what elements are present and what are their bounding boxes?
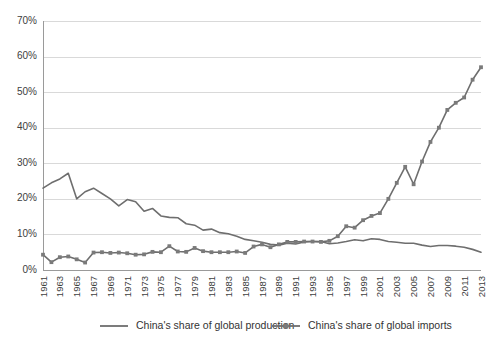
y-axis-tick-label: 70%: [17, 15, 37, 26]
y-axis-tick-label: 50%: [17, 86, 37, 97]
series-marker: [336, 234, 340, 238]
x-axis-tick-label: 1971: [122, 276, 133, 297]
x-axis-tick-label: 2001: [374, 276, 385, 297]
series-marker: [269, 245, 273, 249]
series-marker: [361, 218, 365, 222]
series-marker: [429, 140, 433, 144]
y-axis-tick-label: 10%: [17, 228, 37, 239]
series-marker: [386, 197, 390, 201]
series-marker: [471, 78, 475, 82]
y-axis-labels: 0%10%20%30%40%50%60%70%: [17, 15, 37, 275]
series-marker: [260, 242, 264, 246]
series-marker: [159, 250, 163, 254]
x-axis-tick-label: 2005: [408, 276, 419, 297]
x-axis-tick-label: 1965: [71, 276, 82, 297]
series-marker: [210, 250, 214, 254]
x-axis-tick-label: 1975: [155, 276, 166, 297]
chart-container: 0%10%20%30%40%50%60%70% 1961196319651967…: [0, 0, 498, 345]
series-marker: [294, 240, 298, 244]
series-marker: [353, 226, 357, 230]
x-axis-tick-label: 1981: [206, 276, 217, 297]
series-marker: [437, 126, 441, 130]
series-marker: [378, 211, 382, 215]
series-marker: [193, 246, 197, 250]
x-axis-tick-label: 2009: [442, 276, 453, 297]
x-axis-tick-label: 1961: [38, 276, 49, 297]
x-axis-tick-label: 1997: [341, 276, 352, 297]
series-marker: [83, 261, 87, 265]
series-marker: [454, 101, 458, 105]
y-axis-tick-label: 40%: [17, 121, 37, 132]
series-marker: [445, 108, 449, 112]
series-marker: [403, 165, 407, 169]
series-marker: [218, 250, 222, 254]
series-marker: [327, 239, 331, 243]
x-axis-tick-label: 1977: [172, 276, 183, 297]
series-marker: [50, 260, 54, 264]
x-axis-tick-label: 1983: [223, 276, 234, 297]
y-axis-tick-label: 20%: [17, 192, 37, 203]
series-marker: [370, 214, 374, 218]
y-axis-tick-label: 60%: [17, 50, 37, 61]
x-axis-tick-label: 1969: [105, 276, 116, 297]
series-marker: [151, 250, 155, 254]
y-axis-tick-label: 0%: [23, 264, 38, 275]
series-marker: [462, 96, 466, 100]
series-marker: [201, 249, 205, 253]
series-marker: [75, 257, 79, 261]
series-marker: [134, 253, 138, 257]
series-marker: [311, 240, 315, 244]
series-marker: [235, 250, 239, 254]
x-axis-tick-label: 1979: [189, 276, 200, 297]
x-axis-tick-label: 1995: [324, 276, 335, 297]
axis-lines: [43, 21, 481, 271]
gridlines: [43, 22, 481, 271]
series-marker: [285, 240, 289, 244]
x-axis-labels: 1961196319651967196919711973197519771979…: [38, 276, 487, 297]
series-marker: [479, 65, 483, 69]
series-marker: [92, 251, 96, 255]
series-marker: [100, 250, 104, 254]
x-axis-tick-label: 1963: [54, 276, 65, 297]
x-axis-tick-label: 2007: [425, 276, 436, 297]
series-marker: [395, 181, 399, 185]
x-axis-tick-label: 1989: [273, 276, 284, 297]
series-marker: [184, 250, 188, 254]
series-marker: [243, 251, 247, 255]
series-marker: [167, 244, 171, 248]
series-marker: [412, 182, 416, 186]
x-axis-tick-label: 1985: [240, 276, 251, 297]
series-marker: [108, 251, 112, 255]
series-line: [43, 67, 481, 262]
x-axis-tick-label: 1987: [257, 276, 268, 297]
series-marker: [176, 250, 180, 254]
y-axis-tick-label: 30%: [17, 157, 37, 168]
series-marker: [58, 255, 62, 259]
series-marker: [252, 245, 256, 249]
x-axis-tick-label: 1991: [290, 276, 301, 297]
legend-item-label: China's share of global imports: [308, 319, 452, 331]
series-marker: [226, 250, 230, 254]
series-marker: [66, 255, 70, 259]
series-marker: [319, 240, 323, 244]
series-marker: [142, 252, 146, 256]
series-marker: [420, 160, 424, 164]
x-axis-tick-label: 2011: [459, 276, 470, 296]
x-axis-tick-label: 1999: [358, 276, 369, 297]
series-marker: [302, 240, 306, 244]
x-axis-tick-label: 1993: [307, 276, 318, 297]
legend-swatch-marker: [284, 324, 289, 329]
legend-item-label: China's share of global production: [136, 319, 295, 331]
series-marker: [41, 253, 45, 257]
x-axis-tick-label: 2003: [391, 276, 402, 297]
x-axis-tick-label: 1973: [139, 276, 150, 297]
chart-legend: China's share of global productionChina'…: [100, 319, 452, 331]
x-axis-tick-label: 2013: [476, 276, 487, 297]
x-axis-tick-label: 1967: [88, 276, 99, 297]
chart-plot: 0%10%20%30%40%50%60%70% 1961196319651967…: [0, 0, 498, 345]
series-marker: [277, 242, 281, 246]
series-marker: [344, 224, 348, 228]
series-marker: [125, 251, 129, 255]
series-marker: [117, 251, 121, 255]
